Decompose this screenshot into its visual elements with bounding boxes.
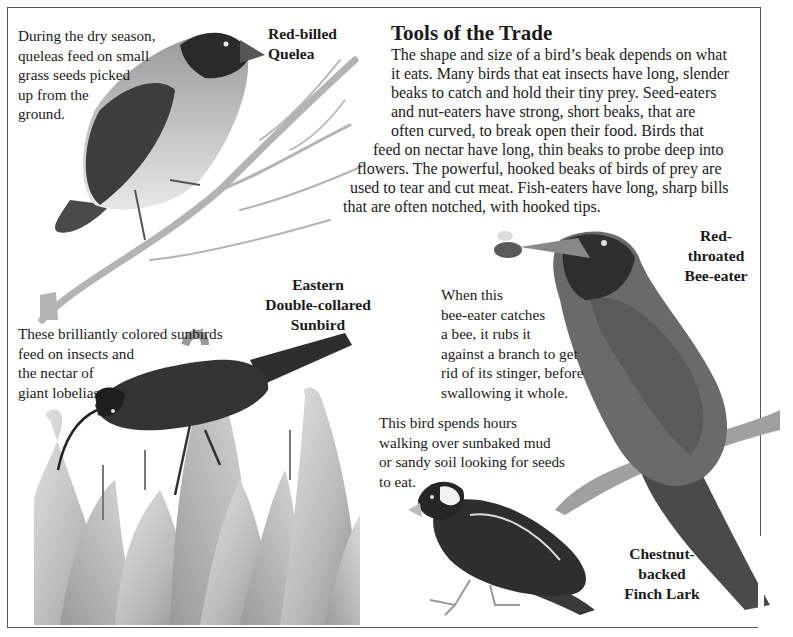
- caption-line: This bird spends hours: [379, 413, 565, 433]
- caption-line: grass seeds picked: [18, 65, 156, 85]
- caption-line: feed on insects and: [18, 344, 223, 364]
- finch-lark-name-label: Chestnut- backed Finch Lark: [612, 544, 712, 604]
- body-line: The shape and size of a bird’s beak depe…: [391, 45, 727, 64]
- body-line: often curved, to break open their food. …: [391, 121, 704, 140]
- label-line: throated: [676, 246, 756, 266]
- body-line: it eats. Many birds that eat insects hav…: [391, 64, 729, 83]
- body-line: used to tear and cut meat. Fish-eaters h…: [350, 178, 729, 197]
- caption-line: During the dry season,: [18, 26, 156, 46]
- label-line: Finch Lark: [612, 584, 712, 604]
- quelea-name-label: Red-billed Quelea: [268, 24, 337, 64]
- body-line: beaks to catch and hold their tiny prey.…: [391, 83, 717, 102]
- bee-eater-name-label: Red- throated Bee-eater: [676, 226, 756, 286]
- sunbird-name-label: Eastern Double-collared Sunbird: [258, 275, 378, 335]
- bee-eater-caption: When this bee-eater catches a bee, it ru…: [441, 285, 583, 402]
- caption-line: ground.: [18, 104, 156, 124]
- caption-line: bee-eater catches: [441, 305, 583, 325]
- caption-line: rid of its stinger, before: [441, 363, 583, 383]
- label-line: Red-: [676, 226, 756, 246]
- body-line: flowers. The powerful, hooked beaks of b…: [357, 159, 721, 178]
- caption-line: up from the: [18, 85, 156, 105]
- caption-line: against a branch to get: [441, 344, 583, 364]
- label-line: Red-billed: [268, 24, 337, 44]
- caption-line: to eat.: [379, 472, 565, 492]
- label-line: Bee-eater: [676, 266, 756, 286]
- caption-line: the nectar of: [18, 363, 223, 383]
- caption-line: queleas feed on small: [18, 46, 156, 66]
- caption-line: These brilliantly colored sunbirds: [18, 324, 223, 344]
- label-line: Sunbird: [258, 315, 378, 335]
- body-line: and nut-eaters have strong, short beaks,…: [391, 102, 695, 121]
- label-line: backed: [612, 564, 712, 584]
- caption-line: a bee, it rubs it: [441, 324, 583, 344]
- label-line: Double-collared: [258, 295, 378, 315]
- body-line: that are often notched, with hooked tips…: [343, 197, 601, 216]
- caption-line: swallowing it whole.: [441, 383, 583, 403]
- finch-lark-caption: This bird spends hours walking over sunb…: [379, 413, 565, 491]
- label-line: Quelea: [268, 44, 337, 64]
- caption-line: When this: [441, 285, 583, 305]
- frame-break: [758, 536, 764, 629]
- body-line: feed on nectar have long, thin beaks to …: [373, 140, 724, 159]
- caption-line: or sandy soil looking for seeds: [379, 452, 565, 472]
- caption-line: walking over sunbaked mud: [379, 433, 565, 453]
- caption-line: giant lobelias.: [18, 383, 223, 403]
- label-line: Chestnut-: [612, 544, 712, 564]
- page-title: Tools of the Trade: [391, 20, 552, 46]
- label-line: Eastern: [258, 275, 378, 295]
- sunbird-caption: These brilliantly colored sunbirds feed …: [18, 324, 223, 402]
- quelea-caption: During the dry season, queleas feed on s…: [18, 26, 156, 124]
